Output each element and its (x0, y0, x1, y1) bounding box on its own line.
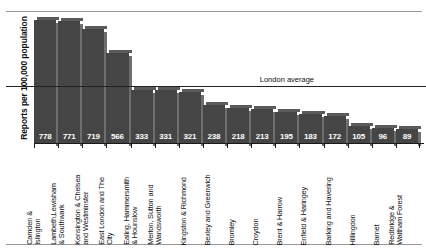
x-axis-tick (396, 143, 420, 148)
bar-value-label: 778 (34, 132, 56, 141)
x-axis-label-line: Wandsworth (155, 185, 163, 245)
x-axis-label-line: & Southwark (59, 183, 67, 245)
bar[interactable]: 238 (203, 105, 225, 143)
x-axis-tick (372, 143, 396, 148)
bar-value-label: 566 (106, 132, 128, 141)
bar-value-label: 218 (227, 132, 249, 141)
bar-slot: 218 (227, 16, 251, 143)
x-axis-tick (131, 143, 155, 148)
x-axis-label-cell: Enfield & Haringey (299, 150, 323, 245)
x-axis-label: Merton, Sutton andWandsworth (147, 185, 164, 245)
x-axis-label-cell: Kingston & Richmond (179, 150, 203, 245)
bar-slot: 321 (179, 16, 203, 143)
plot-area: 7787717195663333313212382182131951831721… (34, 16, 420, 143)
bar-value-label: 89 (396, 132, 418, 141)
bar-value-label: 183 (299, 132, 321, 141)
bar[interactable]: 218 (227, 108, 249, 143)
x-axis-label-cell: Redbridge &Waltham Forest (396, 150, 420, 245)
bar[interactable]: 333 (131, 90, 153, 143)
x-axis-label-cell: Croydon (251, 150, 275, 245)
bar-slot: 89 (396, 16, 420, 143)
x-axis-label-cell: Brent & Harrow (275, 150, 299, 245)
x-axis-label-line: Bromley (228, 219, 236, 245)
x-axis-tick (251, 143, 275, 148)
bar[interactable]: 321 (179, 92, 201, 143)
bar[interactable]: 195 (275, 112, 297, 143)
x-axis-label: Barnet (372, 224, 380, 245)
x-axis-label: Hillingdon (348, 214, 356, 245)
x-axis-tick (58, 143, 82, 148)
x-axis-label-line: Bexley and Greenwich (204, 174, 212, 245)
x-axis-label: East London and TheCity (99, 177, 116, 245)
bar-slot: 771 (58, 16, 82, 143)
bar[interactable]: 778 (34, 20, 56, 144)
bar-value-label: 333 (131, 132, 153, 141)
x-axis-labels: Camden &IslingtonLambeth,Lewisham& South… (34, 150, 420, 245)
x-axis-label-line: City (107, 177, 115, 245)
bar-slot: 172 (324, 16, 348, 143)
x-axis-label-line: Islington (35, 211, 43, 245)
bar-value-label: 172 (324, 132, 346, 141)
bar[interactable]: 566 (106, 53, 128, 143)
x-axis-label: Brent & Harrow (276, 197, 284, 245)
y-axis-title: Reports per 100,000 population (19, 13, 29, 143)
x-axis-label-line: Enfield & Haringey (300, 186, 308, 245)
bar[interactable]: 172 (324, 116, 346, 143)
x-axis-tick (82, 143, 106, 148)
bar[interactable]: 105 (348, 126, 370, 143)
x-axis-tick (299, 143, 323, 148)
top-divider-rule (6, 11, 422, 12)
bar-slot: 105 (348, 16, 372, 143)
bar-series: 7787717195663333313212382182131951831721… (34, 16, 420, 143)
x-axis-label-cell: Barking and Havering (324, 150, 348, 245)
x-axis-label: Ealing, Hammersmith& Hounslow (123, 177, 140, 245)
x-axis-label-line: Brent & Harrow (276, 197, 284, 245)
x-axis-label: Lambeth,Lewisham& Southwark (50, 183, 67, 245)
bar[interactable]: 183 (299, 114, 321, 143)
bar[interactable]: 771 (58, 21, 80, 143)
bar-slot: 566 (106, 16, 130, 143)
x-axis-tick (227, 143, 251, 148)
bar-slot: 778 (34, 16, 58, 143)
x-axis-tick (155, 143, 179, 148)
bar-value-label: 105 (348, 132, 370, 141)
x-axis-label: Croydon (252, 218, 260, 245)
x-axis-label: Kingston & Richmond (179, 177, 187, 245)
bar-value-label: 331 (155, 132, 177, 141)
x-axis-tick (203, 143, 227, 148)
x-axis-tick (179, 143, 203, 148)
x-axis-label-line: and Westminster (83, 175, 91, 245)
x-axis-tick (348, 143, 372, 148)
bar-slot: 333 (131, 16, 155, 143)
x-axis-label: Bromley (228, 219, 236, 245)
bar-value-label: 719 (82, 132, 104, 141)
x-axis-label-line: Kingston & Richmond (179, 177, 187, 245)
x-axis-label: Barking and Havering (324, 177, 332, 245)
bar-value-label: 238 (203, 132, 225, 141)
x-axis-label: Redbridge &Waltham Forest (388, 195, 405, 245)
x-axis-ticks (34, 143, 420, 148)
x-axis-label-line: Croydon (252, 218, 260, 245)
london-average-line: London average (6, 86, 426, 87)
x-axis-tick (106, 143, 130, 148)
bar[interactable]: 89 (396, 129, 418, 143)
bar-slot: 719 (82, 16, 106, 143)
bar[interactable]: 331 (155, 90, 177, 143)
x-axis-tick (275, 143, 299, 148)
bar[interactable]: 213 (251, 109, 273, 143)
bar-value-label: 213 (251, 132, 273, 141)
bar-slot: 96 (372, 16, 396, 143)
x-axis-tick (324, 143, 348, 148)
x-axis-label-line: Barking and Havering (324, 177, 332, 245)
x-axis-label: Enfield & Haringey (300, 186, 308, 245)
x-axis-label-line: & Hounslow (131, 177, 139, 245)
bar-value-label: 321 (179, 132, 201, 141)
x-axis-label-cell: Merton, Sutton andWandsworth (155, 150, 179, 245)
x-axis-label: Bexley and Greenwich (204, 174, 212, 245)
x-axis-tick (34, 143, 58, 148)
bar-slot: 331 (155, 16, 179, 143)
x-axis-label-line: Waltham Forest (397, 195, 405, 245)
bar[interactable]: 96 (372, 128, 394, 143)
x-axis-label-cell: Bexley and Greenwich (203, 150, 227, 245)
london-average-label: London average (260, 75, 314, 84)
